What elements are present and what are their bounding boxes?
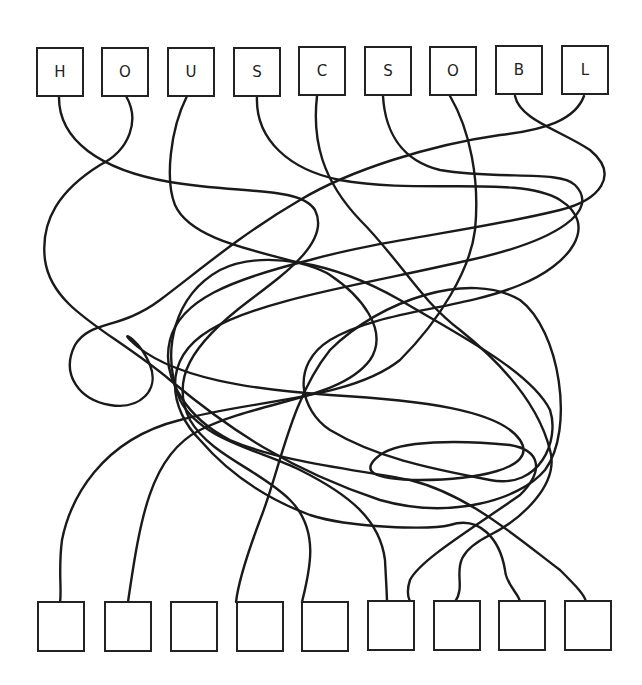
top-letter: C — [317, 62, 327, 80]
answer-box-2[interactable] — [104, 601, 152, 652]
answer-box-9[interactable] — [564, 600, 612, 651]
answer-box-7[interactable] — [433, 600, 481, 651]
top-letter: O — [447, 62, 459, 80]
top-letter: B — [514, 61, 524, 79]
top-letter: S — [252, 63, 262, 81]
tangled-lines — [0, 0, 642, 685]
top-letter: H — [54, 63, 65, 81]
top-box-l: L — [561, 45, 609, 95]
top-letter: L — [581, 61, 589, 79]
tangled-lines-puzzle: H O U S C S O B L — [0, 0, 642, 685]
top-box-u: U — [167, 47, 215, 97]
top-letter: S — [383, 62, 393, 80]
top-box-s: S — [364, 46, 412, 96]
top-box-b: B — [495, 45, 543, 95]
top-box-o: O — [429, 46, 477, 96]
answer-box-5[interactable] — [301, 601, 349, 652]
answer-box-3[interactable] — [170, 601, 218, 652]
answer-box-6[interactable] — [367, 600, 415, 651]
answer-box-4[interactable] — [236, 601, 284, 652]
top-box-h: H — [36, 47, 84, 97]
line-u — [128, 96, 376, 602]
top-box-c: C — [298, 46, 346, 96]
line-o2 — [60, 96, 476, 602]
top-letter: O — [119, 63, 131, 81]
top-box-s: S — [233, 47, 281, 97]
answer-box-1[interactable] — [37, 601, 85, 652]
line-s2 — [175, 96, 582, 602]
top-letter: U — [186, 63, 197, 81]
answer-box-8[interactable] — [498, 600, 546, 651]
top-box-o: O — [101, 47, 149, 97]
